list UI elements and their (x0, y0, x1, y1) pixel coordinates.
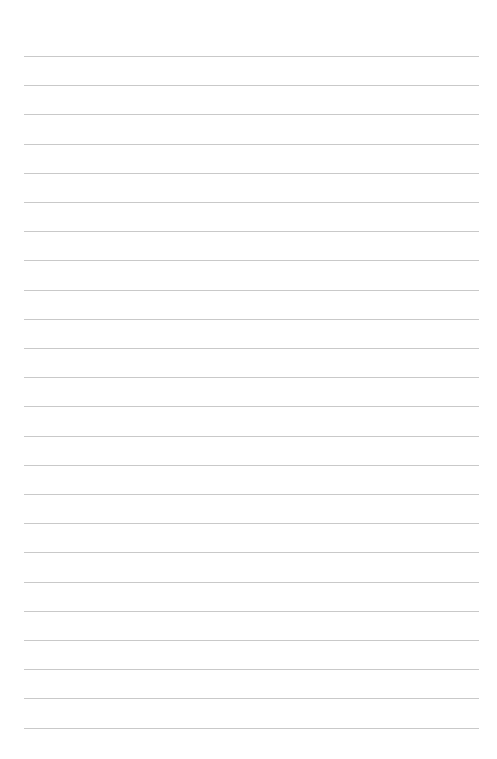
lined-paper-page (0, 0, 497, 759)
ruled-line (24, 494, 479, 495)
ruled-line (24, 728, 479, 729)
ruled-line (24, 611, 479, 612)
ruled-line (24, 523, 479, 524)
ruled-line (24, 406, 479, 407)
ruled-line (24, 640, 479, 641)
ruled-line (24, 582, 479, 583)
ruled-line (24, 114, 479, 115)
ruled-line (24, 202, 479, 203)
ruled-line (24, 552, 479, 553)
ruled-line (24, 144, 479, 145)
ruled-line (24, 319, 479, 320)
ruled-line (24, 173, 479, 174)
ruled-line (24, 465, 479, 466)
ruled-line (24, 85, 479, 86)
ruled-line (24, 231, 479, 232)
ruled-line (24, 260, 479, 261)
ruled-line (24, 436, 479, 437)
ruled-line (24, 56, 479, 57)
ruled-line (24, 348, 479, 349)
ruled-line (24, 290, 479, 291)
ruled-line (24, 669, 479, 670)
ruled-line (24, 698, 479, 699)
ruled-line (24, 377, 479, 378)
